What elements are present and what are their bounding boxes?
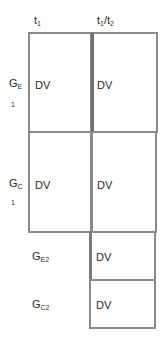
cell-ge1-t1: DV	[28, 32, 92, 133]
cell-value: DV	[96, 251, 111, 263]
row-label-ge2: GE2	[32, 250, 49, 262]
cell-value: DV	[96, 299, 111, 311]
cell-value: DV	[97, 179, 112, 191]
label-base: G	[32, 250, 41, 262]
cell-value: DV	[35, 79, 50, 91]
row-label-gc2: GC2	[32, 298, 50, 310]
cell-gc2-t1t2: DV	[89, 279, 156, 329]
column-header-t1: t1	[34, 14, 41, 26]
label-sub: E2	[41, 256, 50, 263]
label-sub: C2	[41, 304, 50, 311]
column-header-t1-t2: t1/t2	[97, 14, 114, 26]
row-label-gc1: GC	[9, 177, 23, 189]
cell-value: DV	[35, 179, 50, 191]
cell-ge1-t1t2: DV	[91, 32, 158, 133]
row-index-ge1: 1	[11, 101, 15, 109]
cell-gc1-t1: DV	[28, 131, 92, 233]
header-sub: 1	[37, 20, 41, 27]
label-base: G	[9, 77, 18, 89]
label-base: G	[32, 298, 41, 310]
label-sub: E	[18, 83, 23, 90]
label-base: G	[9, 177, 18, 189]
cell-ge2-t1t2: DV	[89, 231, 156, 281]
cell-gc1-t1t2: DV	[91, 131, 157, 233]
header-sub2: 2	[110, 20, 114, 27]
label-sub: C	[18, 183, 23, 190]
row-label-ge1: GE	[9, 77, 22, 89]
cell-value: DV	[97, 79, 112, 91]
row-index-gc1: 1	[11, 199, 15, 207]
